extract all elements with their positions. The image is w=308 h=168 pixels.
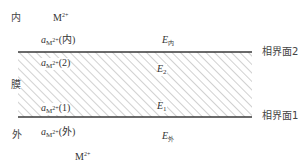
potential-1-label: E1 bbox=[157, 101, 167, 113]
inner-region-label: 内 bbox=[11, 13, 21, 23]
potential-outer-label: E外 bbox=[162, 131, 174, 142]
outer-region-label: 外 bbox=[12, 130, 22, 140]
interface-2-label: 相界面2 bbox=[262, 47, 298, 57]
activity-outer-label: aM2+(外) bbox=[41, 127, 75, 139]
activity-1-label: aM2+(1) bbox=[41, 103, 70, 115]
inner-ion-label: M2+ bbox=[53, 12, 68, 23]
interface-1-label: 相界面1 bbox=[262, 111, 298, 121]
activity-2-label: aM2+(2) bbox=[41, 58, 70, 70]
activity-inner-label: aM2+(内) bbox=[41, 35, 75, 47]
potential-inner-label: E内 bbox=[162, 35, 174, 46]
outer-ion-label: M2+ bbox=[75, 151, 90, 162]
membrane-diagram bbox=[0, 0, 308, 168]
membrane-region-label: 膜 bbox=[11, 80, 21, 90]
potential-2-label: E2 bbox=[157, 64, 167, 76]
